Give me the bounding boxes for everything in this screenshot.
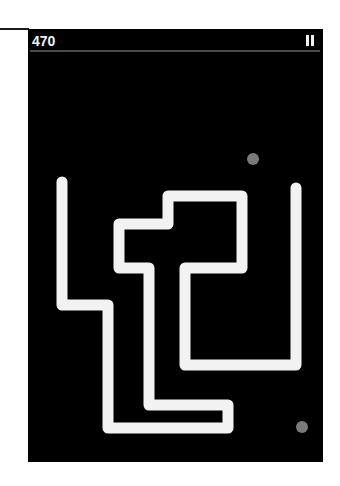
play-field xyxy=(28,29,323,462)
game-board[interactable]: 470 xyxy=(28,29,323,462)
edge-line xyxy=(0,28,29,30)
snake xyxy=(62,182,296,428)
food-pellet xyxy=(296,421,308,433)
food-pellet xyxy=(247,153,259,165)
